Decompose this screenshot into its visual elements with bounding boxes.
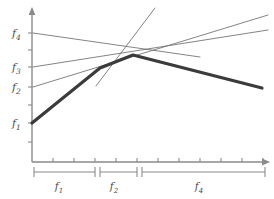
thin-lines-group: [33, 8, 268, 87]
y-axis-group: [28, 7, 35, 162]
figure-container: f4 f3 f2 f1: [0, 0, 274, 199]
piecewise-linear-curve: [32, 55, 262, 123]
bracket-label-f4: f4: [194, 180, 203, 195]
y-label-f3: f3: [11, 61, 21, 76]
bracket-f2: [100, 167, 137, 177]
bracket-labels: f1 f2 f4: [54, 180, 203, 195]
y-label-f2: f2: [11, 81, 21, 96]
line-from-f2-ascending: [33, 15, 268, 87]
x-axis-group: [32, 158, 270, 165]
bracket-label-f1: f1: [54, 180, 63, 195]
line-from-f3-ascending: [33, 30, 268, 67]
y-label-f1: f1: [11, 117, 21, 132]
bracket-label-f2: f2: [109, 180, 119, 195]
bracket-f1: [34, 167, 95, 177]
y-axis-labels: f4 f3 f2 f1: [11, 27, 21, 132]
y-label-f4: f4: [11, 27, 21, 42]
line-steep-ascending: [96, 8, 155, 86]
diagram-svg: f4 f3 f2 f1: [0, 0, 274, 199]
y-axis-arrow-icon: [29, 7, 36, 15]
brackets-group: [34, 167, 265, 177]
bracket-f4: [142, 167, 265, 177]
